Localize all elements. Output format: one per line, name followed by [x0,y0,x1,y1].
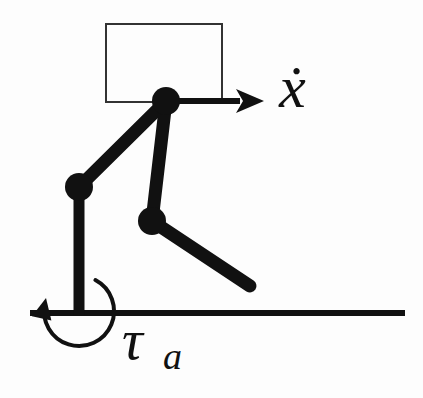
knee-joint-left [65,173,93,201]
leg-mechanism-diagram [0,0,423,398]
link-mid-knee-to-toe [152,221,250,286]
velocity-arrow-head [236,89,264,113]
velocity-arrow [168,89,264,113]
torque-subscript: a [163,337,182,375]
velocity-symbol: ẋ [279,54,306,120]
knee-joint-mid [138,207,166,235]
velocity-label: ẋ [279,57,306,117]
leg-links [79,101,250,315]
torque-arc-head [32,298,52,321]
torque-symbol: τ [122,311,143,369]
figure-canvas: ẋ τ a [0,0,423,398]
